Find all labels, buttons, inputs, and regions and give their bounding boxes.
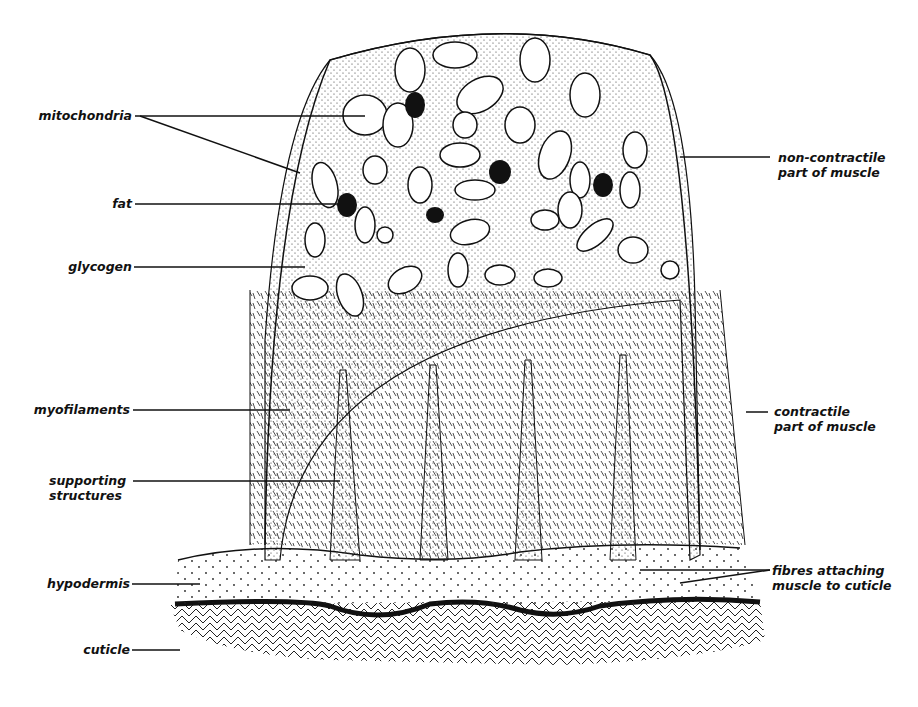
label-noncontractile: non-contractile part of muscle <box>778 150 885 180</box>
label-mitochondria: mitochondria <box>20 108 132 123</box>
label-glycogen: glycogen <box>20 259 132 274</box>
label-hypodermis: hypodermis <box>10 576 130 591</box>
label-cuticle: cuticle <box>10 642 130 657</box>
label-contractile: contractile part of muscle <box>774 404 876 434</box>
label-supporting: supporting structures <box>49 473 126 503</box>
label-myofilaments: myofilaments <box>10 402 130 417</box>
label-fibres: fibres attaching muscle to cuticle <box>772 563 892 593</box>
cuticle-layer <box>170 600 765 665</box>
muscle-diagram <box>0 0 918 707</box>
label-fat: fat <box>20 196 132 211</box>
